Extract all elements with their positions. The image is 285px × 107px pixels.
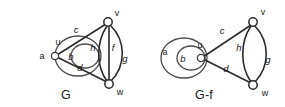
label-edge-h-right: h (236, 42, 241, 53)
label-edge-b-right: b (180, 53, 185, 64)
label-edge-a: a (39, 51, 44, 61)
label-edge-a-right: a (162, 47, 167, 57)
label-vertex-u-right: u (197, 40, 202, 50)
graph-figure: a b u v w c d h f g G (0, 0, 285, 107)
label-edge-b: b (68, 51, 73, 62)
graph-g: a b u v w c d h f g G (39, 8, 128, 102)
vertex-w (105, 80, 113, 88)
label-vertex-v-right: v (261, 7, 266, 17)
label-vertex-v: v (115, 8, 120, 18)
vertex-v-right (249, 18, 257, 26)
label-edge-h: h (90, 42, 95, 53)
label-edge-g: g (122, 53, 128, 64)
vertex-u (51, 52, 58, 59)
caption-graph-g-minus-f: G-f (195, 88, 213, 102)
label-vertex-w-right: w (261, 88, 269, 98)
label-vertex-u: u (55, 37, 60, 47)
label-edge-g-right: g (265, 54, 271, 65)
edge-h-curve (99, 26, 107, 81)
vertex-w-right (249, 81, 257, 89)
edge-g-curve (111, 26, 122, 81)
vertex-v (104, 18, 112, 26)
label-edge-f: f (112, 42, 116, 53)
label-vertex-w: w (116, 87, 124, 97)
figure-canvas: a b u v w c d h f g G (0, 0, 285, 107)
label-edge-d-right: d (223, 63, 229, 74)
label-edge-c-right: c (220, 25, 225, 36)
edge-h-curve-right (243, 26, 251, 82)
label-edge-c: c (74, 24, 79, 35)
caption-graph-g: G (61, 88, 71, 102)
label-edge-d: d (77, 62, 83, 73)
graph-g-minus-f: a b u v w c d h g G-f (161, 7, 271, 102)
vertex-u-right (197, 54, 204, 61)
